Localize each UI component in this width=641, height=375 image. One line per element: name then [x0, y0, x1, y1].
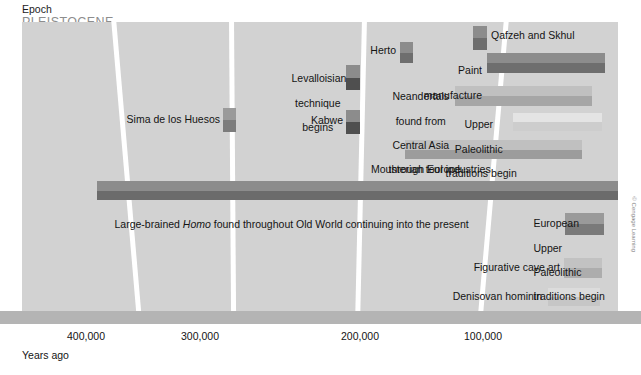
axis-title: Years ago: [22, 349, 69, 361]
axis-tick-400000: 400,000: [46, 330, 126, 342]
axis-tick-200000: 200,000: [320, 330, 400, 342]
bar-levalloisian: [346, 65, 360, 90]
label-large-brained-homo: Large-brained Homo found throughout Old …: [97, 206, 469, 243]
label-upper-paleolithic-line1: Upper: [464, 118, 493, 130]
label-upper-paleolithic: Upper Paleolithic traditions begin: [428, 106, 512, 191]
label-sima-de-los-huesos: Sima de los Huesos: [120, 113, 220, 125]
axis-tick-100000: 100,000: [443, 330, 523, 342]
label-levalloisian-line2: technique: [295, 97, 341, 109]
bar-sima-de-los-huesos: [223, 108, 236, 132]
label-mousterian: Mousterian tool industries: [371, 163, 491, 175]
bar-kabwe: [346, 110, 360, 134]
epoch-label: Epoch: [22, 3, 114, 15]
label-euro-line4: traditions begin: [534, 290, 605, 302]
label-paint-line1: Paint: [458, 64, 482, 76]
timeline-figure: Epoch PLEISTOCENE: [0, 0, 641, 375]
bar-qafzeh-skhul: [473, 26, 487, 50]
axis-tick-300000: 300,000: [160, 330, 240, 342]
label-levalloisian: Levalloisian technique begins: [274, 60, 344, 145]
bar-paint-manufacture: [487, 53, 605, 73]
label-homo-suffix: found throughout Old World continuing in…: [211, 218, 469, 230]
label-herto: Herto: [345, 44, 396, 56]
label-levalloisian-line1: Levalloisian: [292, 72, 347, 84]
plot-area: Qafzeh and Skhul Paint manufacture Herto…: [0, 18, 641, 323]
label-euro-line1: European: [534, 217, 580, 229]
label-qafzeh-skhul: Qafzeh and Skhul: [491, 29, 574, 41]
label-homo-genus: Homo: [183, 218, 211, 230]
label-homo-prefix: Large-brained: [115, 218, 183, 230]
label-neandertals-line1: Neandertals: [392, 90, 449, 102]
label-figurative-cave-art: Figurative cave art: [456, 261, 560, 273]
copyright-credit: © Cengage Learning: [631, 197, 637, 252]
label-denisovan-hominin: Denisovan hominin: [430, 290, 542, 302]
bar-upper-paleolithic: [513, 113, 602, 131]
bar-large-brained-homo: [97, 181, 618, 200]
label-euro-line2: Upper: [534, 242, 563, 254]
label-kabwe: Kabwe: [290, 114, 343, 126]
label-upper-paleolithic-line2: Paleolithic: [455, 143, 503, 155]
